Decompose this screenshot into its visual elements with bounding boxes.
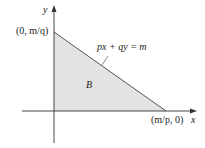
- region-label: B: [86, 79, 92, 90]
- x-intercept-label: (m/p, 0): [151, 114, 183, 126]
- y-axis-label: y: [42, 4, 48, 15]
- y-axis-arrow-icon: [52, 5, 57, 12]
- line-equation-label: px + qy = m: [96, 41, 147, 52]
- diagram-canvas: y x (0, m/q) (m/p, 0) px + qy = m B: [0, 0, 205, 148]
- x-axis-arrow-icon: [190, 109, 197, 114]
- x-axis-label: x: [190, 114, 196, 125]
- y-intercept-label: (0, m/q): [16, 25, 48, 37]
- leader-line: [102, 56, 108, 65]
